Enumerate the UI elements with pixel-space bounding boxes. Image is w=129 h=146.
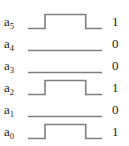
signal-path [28, 125, 102, 139]
signal-label-base: a [4, 102, 10, 117]
signal-label: a1 [4, 99, 26, 121]
signal-label-subscript: 5 [10, 21, 14, 31]
signal-trace [28, 55, 102, 77]
signal-value: 0 [112, 55, 128, 77]
signal-label-base: a [4, 124, 10, 139]
signal-label-base: a [4, 58, 10, 73]
signal-label: a0 [4, 121, 26, 143]
signal-label-base: a [4, 80, 10, 95]
waveform-row: a10 [0, 99, 129, 121]
signal-trace [28, 99, 102, 121]
signal-path [28, 81, 102, 95]
signal-trace [28, 33, 102, 55]
signal-label-subscript: 1 [10, 109, 14, 119]
waveform-row: a01 [0, 121, 129, 143]
signal-label-subscript: 2 [10, 87, 14, 97]
signal-value: 1 [112, 11, 128, 33]
signal-value: 1 [112, 121, 128, 143]
signal-label: a5 [4, 11, 26, 33]
waveform-diagram: a51a40a30a21a10a01 [0, 0, 129, 146]
waveform-row: a51 [0, 11, 129, 33]
waveform-row: a30 [0, 55, 129, 77]
signal-value: 1 [112, 77, 128, 99]
waveform-row: a21 [0, 77, 129, 99]
signal-label-subscript: 0 [10, 131, 14, 141]
signal-label-subscript: 3 [10, 65, 14, 75]
signal-trace [28, 11, 102, 33]
signal-value: 0 [112, 33, 128, 55]
signal-value: 0 [112, 99, 128, 121]
signal-trace [28, 77, 102, 99]
signal-label: a3 [4, 55, 26, 77]
signal-label-base: a [4, 36, 10, 51]
signal-path [28, 15, 102, 29]
waveform-row: a40 [0, 33, 129, 55]
signal-label: a2 [4, 77, 26, 99]
signal-label-base: a [4, 14, 10, 29]
signal-trace [28, 121, 102, 143]
signal-label-subscript: 4 [10, 43, 14, 53]
signal-label: a4 [4, 33, 26, 55]
